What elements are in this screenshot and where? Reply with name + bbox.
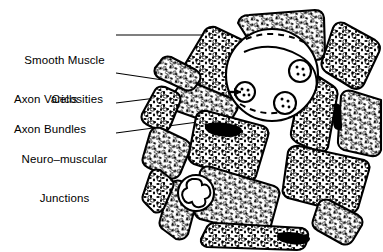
smooth-muscle-cell <box>143 128 191 179</box>
label-line-1: Smooth Muscle <box>14 54 115 67</box>
smooth-muscle-cell <box>322 23 380 89</box>
axon-varicosity <box>289 60 311 82</box>
axon-varicosity <box>274 92 296 114</box>
histology-figure: Smooth Muscle Cells Axon Varicosities Ax… <box>0 0 383 252</box>
axon-bundle <box>226 29 318 121</box>
nucleus <box>333 103 342 130</box>
neuromuscular-junction <box>178 175 214 211</box>
label-line-1: Neuro–muscular <box>12 153 117 166</box>
label-line-2: Junctions <box>12 192 117 205</box>
label-neuromuscular-junctions: Neuro–muscular Junctions <box>12 127 117 231</box>
smooth-muscle-cell <box>338 91 381 157</box>
